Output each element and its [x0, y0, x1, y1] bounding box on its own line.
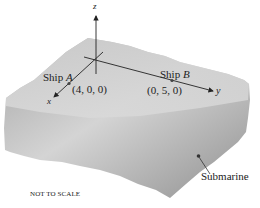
not-to-scale-note: NOT TO SCALE: [30, 191, 80, 198]
ship-a-label-var: A: [66, 71, 73, 83]
ship-a-label: Ship A: [43, 72, 73, 83]
ship-b-label-var: B: [183, 68, 190, 80]
submarine-marker: [197, 154, 201, 158]
ship-b-label-prefix: Ship: [160, 68, 180, 80]
ship-a-coords: (4, 0, 0): [72, 84, 107, 95]
submarine-label: Submarine: [201, 171, 249, 182]
x-axis-label: x: [47, 97, 51, 106]
ship-b-coords: (0, 5, 0): [147, 85, 182, 96]
ship-b-label: Ship B: [160, 69, 190, 80]
z-axis-label: z: [93, 2, 97, 11]
diagram-canvas: z x y Ship A (4, 0, 0) Ship B (0, 5, 0) …: [0, 0, 260, 208]
ship-a-label-prefix: Ship: [43, 71, 63, 83]
y-axis-label: y: [216, 86, 220, 96]
